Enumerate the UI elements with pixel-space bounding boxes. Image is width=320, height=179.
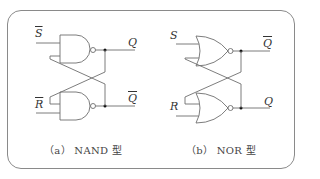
input-label-s-bar: S: [35, 28, 43, 39]
inverter-bubble-icon: [91, 104, 96, 109]
nand-gate-bottom: [60, 92, 90, 120]
input-label-r: R: [170, 101, 178, 112]
caption-a: （a） NAND 型: [44, 142, 122, 157]
nand-latch: [36, 35, 135, 120]
caption-b: （b） NOR 型: [186, 142, 256, 157]
output-label-q-bar: Q: [263, 38, 272, 49]
input-label-r-bar: R: [35, 99, 43, 110]
output-label-q-bar: Q: [128, 93, 137, 104]
input-label-s: S: [170, 30, 178, 41]
output-label-q: Q: [128, 37, 137, 48]
output-label-q: Q: [264, 96, 273, 107]
nand-gate-top: [60, 35, 90, 63]
nor-gate-bottom: [196, 93, 228, 123]
inverter-bubble-icon: [91, 48, 96, 53]
nor-latch: [176, 36, 270, 123]
inverter-bubble-icon: [228, 106, 233, 111]
nor-gate-top: [196, 36, 228, 66]
inverter-bubble-icon: [228, 49, 233, 54]
